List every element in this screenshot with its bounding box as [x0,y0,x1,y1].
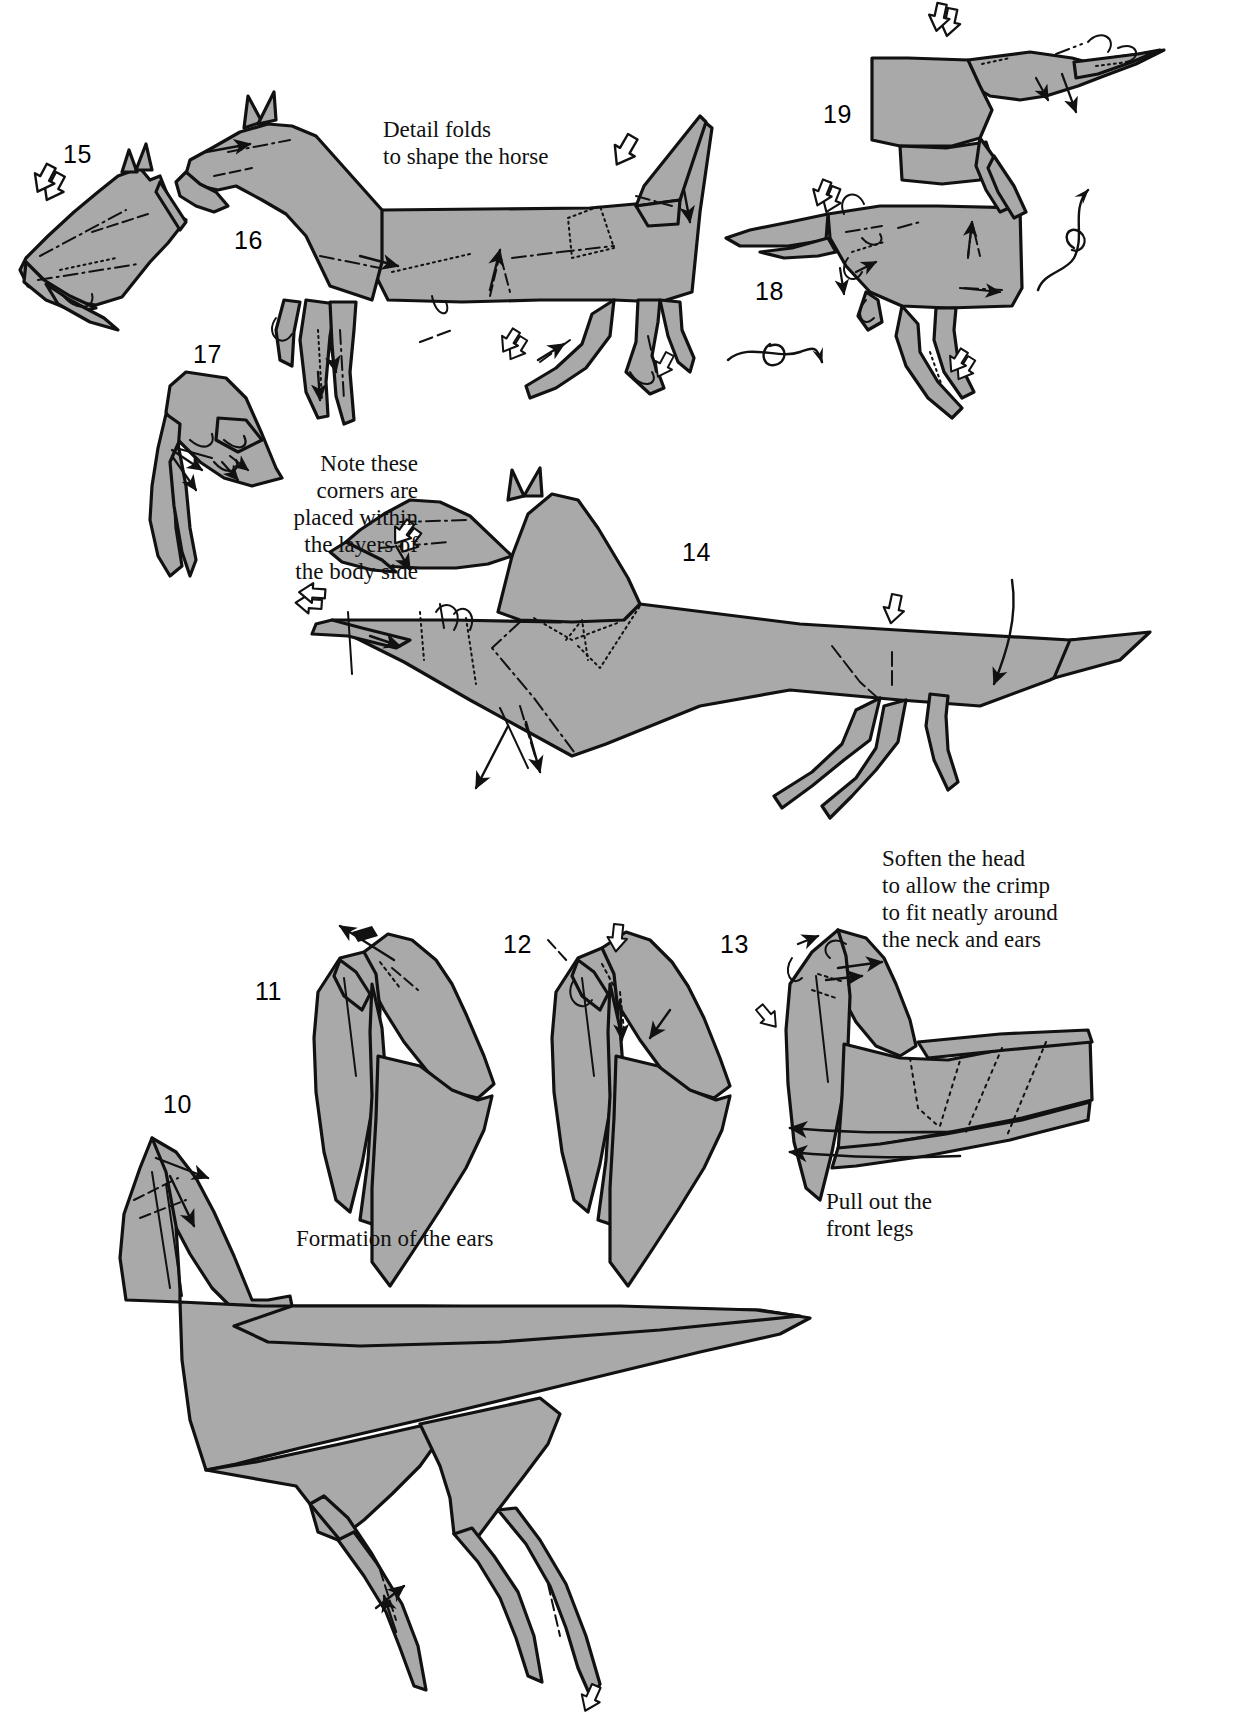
step-10-figure [120,1138,810,1700]
push-arrow-14-front [295,582,326,615]
step-number-11: 11 [255,977,282,1006]
step-number-10: 10 [163,1090,192,1119]
turn-over-arrow-18 [728,344,822,365]
step-number-18: 18 [755,277,784,306]
turn-over-arrow-right [1038,190,1088,290]
step-19-figure [872,50,1164,218]
push-arrow-19 [926,2,964,38]
caption-pull-out-front-legs: Pull out the front legs [826,1188,1046,1242]
caption-note-corners: Note these corners are placed within the… [196,450,418,585]
step-number-19: 19 [823,100,852,129]
push-arrow-13 [752,1001,783,1032]
caption-soften-head: Soften the head to allow the crimp to fi… [882,845,1182,953]
push-arrow-14-back [881,593,907,625]
step-number-14: 14 [682,538,711,567]
step-number-13: 13 [720,930,749,959]
step-18-figure [726,206,1022,418]
step-number-17: 17 [193,340,222,369]
step-number-16: 16 [234,226,263,255]
push-arrow-18 [807,177,846,215]
caption-formation-of-ears: Formation of the ears [296,1225,596,1252]
step-number-12: 12 [503,930,532,959]
push-arrow-16-leg [494,326,533,364]
step-number-15: 15 [63,140,92,169]
step-13-figure [786,930,1092,1200]
push-arrow-10 [576,1682,605,1715]
diagram-page: 10 11 12 13 14 15 16 17 18 19 Detail fol… [0,0,1238,1727]
caption-detail-folds: Detail folds to shape the horse [383,116,653,170]
